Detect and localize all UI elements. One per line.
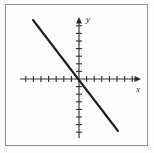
x-axis-label: x	[135, 84, 140, 94]
y-axis-group: y	[76, 14, 90, 138]
figure-root: x y	[0, 0, 154, 153]
x-axis-arrowhead	[135, 76, 142, 82]
y-axis-arrowhead	[76, 17, 82, 24]
y-axis-label: y	[85, 14, 90, 24]
plotted-line-series	[33, 20, 118, 131]
x-axis-group: x	[20, 76, 141, 94]
coordinate-graph: x y	[0, 0, 154, 153]
